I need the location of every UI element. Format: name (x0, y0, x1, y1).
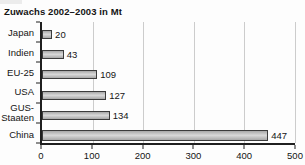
bar-rows: 20 43 109 127 134 447 (42, 22, 295, 143)
x-tick-marks (41, 145, 295, 149)
bar-gus-staaten (42, 111, 110, 120)
x-tick-label-200: 200 (135, 150, 151, 161)
bar-row-eu25: 109 (42, 62, 295, 82)
value-label-gus-staaten: 134 (113, 110, 129, 121)
value-label-indien: 43 (67, 49, 78, 60)
x-tick-label-0: 0 (38, 150, 43, 161)
x-tick (142, 145, 143, 149)
category-label-usa: USA (0, 81, 37, 101)
x-tick-label-500: 500 (287, 150, 303, 161)
category-labels: Japan Indien EU-25 USA GUS-Staaten China (0, 22, 37, 143)
bar-row-gus-staaten: 134 (42, 103, 295, 123)
bar-row-usa: 127 (42, 83, 295, 103)
chart-title: Zuwachs 2002–2003 in Mt (4, 6, 122, 17)
x-tick (41, 145, 42, 149)
category-label-gus-staaten: GUS-Staaten (0, 100, 37, 123)
gridline (295, 22, 296, 143)
category-label-indien: Indien (0, 42, 37, 62)
value-label-china: 447 (271, 130, 287, 141)
category-label-china: China (0, 123, 37, 143)
bar-eu25 (42, 70, 97, 79)
bar-row-china: 447 (42, 123, 295, 143)
x-tick (295, 145, 296, 149)
x-tick (193, 145, 194, 149)
bar-indien (42, 50, 64, 59)
value-label-japan: 20 (55, 29, 66, 40)
value-label-eu25: 109 (100, 69, 116, 80)
corner-artifact (0, 0, 22, 4)
value-label-usa: 127 (109, 90, 125, 101)
x-tick (91, 145, 92, 149)
x-tick-label-300: 300 (185, 150, 201, 161)
bar-chart-zuwachs: Zuwachs 2002–2003 in Mt Japan Indien EU-… (0, 0, 305, 165)
x-tick (244, 145, 245, 149)
category-label-japan: Japan (0, 22, 37, 42)
bar-row-indien: 43 (42, 42, 295, 62)
x-axis-labels: 0 100 200 300 400 500 (41, 150, 295, 162)
x-tick-label-400: 400 (236, 150, 252, 161)
bar-japan (42, 30, 52, 39)
bar-china (42, 130, 268, 141)
category-label-eu25: EU-25 (0, 61, 37, 81)
bar-usa (42, 91, 106, 100)
x-tick-label-100: 100 (84, 150, 100, 161)
plot-area: 20 43 109 127 134 447 (40, 22, 295, 145)
bar-row-japan: 20 (42, 22, 295, 42)
